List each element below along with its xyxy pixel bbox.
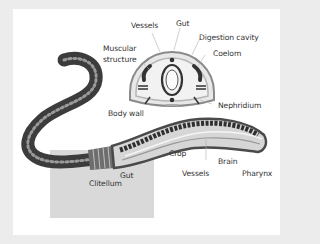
label-brain: Brain [218, 158, 237, 166]
label-gut-top: Gut [176, 20, 189, 28]
label-gut-bottom: Gut [120, 172, 133, 180]
label-vessels-bottom: Vessels [182, 170, 209, 178]
label-muscular: Muscular [103, 45, 136, 53]
label-digestion-cavity: Digestion cavity [199, 34, 259, 42]
clitellum-band [88, 146, 114, 170]
worm-body [28, 58, 105, 162]
label-nephridium: Nephridium [218, 102, 261, 110]
label-clitellum: Clitellum [89, 180, 122, 188]
label-structure: structure [103, 56, 137, 64]
dissected-anterior [112, 119, 266, 168]
label-coelom: Coelom [213, 50, 241, 58]
label-crop: Crop [169, 150, 186, 158]
label-pharynx: Pharynx [242, 170, 272, 178]
label-vessels-top: Vessels [131, 22, 158, 30]
label-body-wall: Body wall [108, 110, 144, 118]
